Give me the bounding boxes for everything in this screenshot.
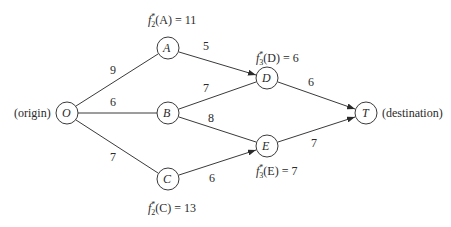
node-label-T: T [362, 107, 369, 119]
weight-B-E: 8 [208, 112, 214, 124]
annotation-E: f3*(E) = 7 [256, 164, 297, 180]
node-label-C: C [163, 173, 171, 185]
node-label-D: D [262, 72, 271, 84]
node-label-B: B [163, 107, 170, 119]
destination-label: (destination) [382, 107, 443, 119]
weight-O-C: 7 [110, 151, 116, 163]
weight-O-B: 6 [110, 96, 116, 108]
node-label-A: A [163, 42, 170, 54]
annotation-D: f3*(D) = 6 [256, 51, 299, 67]
edge-C-E [179, 150, 256, 175]
edge-O-A [76, 54, 158, 106]
edge-O-C [76, 120, 158, 173]
weight-D-T: 6 [308, 76, 314, 88]
edge-B-E [179, 117, 256, 142]
node-label-O: O [62, 107, 71, 119]
origin-label: (origin) [14, 107, 51, 119]
node-label-E: E [262, 140, 269, 152]
annotation-A: f2*(A) = 11 [148, 13, 196, 29]
edge-D-T [278, 82, 355, 109]
weight-B-D: 7 [203, 82, 209, 94]
weight-E-T: 7 [311, 137, 317, 149]
weight-C-E: 6 [209, 172, 215, 184]
weight-A-D: 5 [203, 40, 209, 52]
edge-A-D [179, 52, 256, 75]
annotation-C: f2*(C) = 13 [148, 201, 196, 217]
weight-O-A: 9 [110, 64, 116, 76]
edge-B-D [179, 82, 256, 109]
